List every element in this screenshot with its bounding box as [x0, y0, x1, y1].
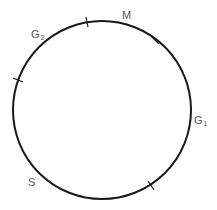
label-m: M [122, 9, 131, 21]
cycle-circle [13, 21, 191, 199]
label-s: S [28, 176, 35, 188]
cell-cycle-diagram: M G2 G1 S [0, 0, 217, 210]
label-g2: G2 [31, 28, 45, 41]
label-g1: G1 [194, 114, 208, 127]
